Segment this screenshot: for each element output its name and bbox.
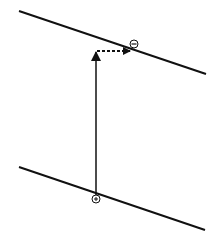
diagram-svg [0, 0, 220, 238]
diagram-canvas [0, 0, 220, 238]
bottom-line [19, 167, 205, 230]
positive-charge-marker [92, 195, 100, 203]
negative-charge-marker [130, 40, 138, 48]
top-line [19, 11, 206, 74]
